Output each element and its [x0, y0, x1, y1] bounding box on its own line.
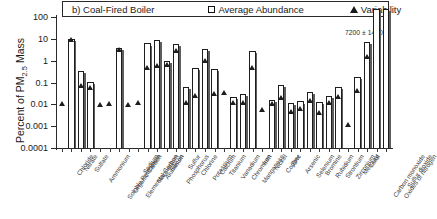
variability-marker	[345, 122, 351, 127]
variability-marker	[364, 54, 370, 59]
variability-marker	[135, 100, 141, 105]
variability-marker	[125, 102, 131, 107]
bar	[183, 87, 189, 148]
variability-marker	[78, 83, 84, 88]
variability-marker	[221, 90, 227, 95]
variability-marker	[144, 65, 150, 70]
variability-marker	[183, 100, 189, 105]
variability-marker	[240, 100, 246, 105]
x-tick	[339, 148, 340, 152]
x-tick	[319, 148, 320, 152]
bar	[144, 43, 150, 148]
x-tick	[291, 148, 292, 152]
bar	[87, 82, 93, 148]
x-tick	[167, 148, 168, 152]
x-tick	[62, 148, 63, 152]
x-tick	[262, 148, 263, 152]
x-tick-label: Zinc	[289, 153, 302, 167]
bar	[373, 9, 379, 148]
y-tick-label: 10	[38, 34, 48, 44]
bar	[154, 40, 160, 148]
variability-marker	[259, 107, 265, 112]
variability-marker	[106, 101, 112, 106]
filled-triangle-icon	[350, 6, 358, 13]
x-tick	[110, 148, 111, 152]
y-tick	[51, 148, 57, 149]
x-tick	[205, 148, 206, 152]
variability-marker	[335, 94, 341, 99]
bar	[173, 44, 179, 148]
bar	[192, 68, 198, 148]
variability-marker	[68, 37, 74, 42]
variability-marker	[297, 106, 303, 111]
variability-marker	[316, 110, 322, 115]
variability-marker	[116, 47, 122, 52]
x-tick	[348, 148, 349, 152]
x-tick	[367, 148, 368, 152]
variability-marker	[269, 101, 275, 106]
variability-marker	[354, 88, 360, 93]
variability-marker	[249, 65, 255, 70]
y-tick-label: 0.1	[35, 78, 48, 88]
x-tick	[129, 148, 130, 152]
y-tick-label: 0.001	[25, 121, 48, 131]
x-tick	[138, 148, 139, 152]
x-tick	[377, 148, 378, 152]
bar	[269, 100, 275, 148]
x-tick	[272, 148, 273, 152]
chart-legend: b) Coal-Fired Boiler Average Abundance V…	[62, 1, 389, 17]
variability-marker	[154, 63, 160, 68]
x-tick	[148, 148, 149, 152]
variability-marker	[288, 109, 294, 114]
variability-marker	[164, 62, 170, 67]
x-tick	[281, 148, 282, 152]
variability-marker	[192, 93, 198, 98]
x-tick	[186, 148, 187, 152]
x-tick-label: Ammonium	[107, 153, 131, 183]
x-tick	[100, 148, 101, 152]
variability-marker	[97, 102, 103, 107]
variability-marker	[173, 48, 179, 53]
variability-marker	[326, 100, 332, 105]
bar	[383, 9, 389, 148]
y-tick-label: 0.0001	[20, 143, 48, 153]
variability-marker	[87, 85, 93, 90]
variability-marker	[202, 58, 208, 63]
panel-label: b) Coal-Fired Boiler	[72, 4, 154, 15]
variability-marker	[59, 101, 65, 106]
x-tick	[300, 148, 301, 152]
x-tick	[234, 148, 235, 152]
legend-label-average-abundance: Average Abundance	[218, 4, 303, 15]
y-tick-label: 0.01	[30, 99, 48, 109]
x-tick	[81, 148, 82, 152]
variability-marker	[307, 98, 313, 103]
x-tick	[224, 148, 225, 152]
x-tick	[195, 148, 196, 152]
x-tick	[90, 148, 91, 152]
open-square-icon	[208, 6, 215, 13]
legend-item-average-abundance: Average Abundance	[208, 4, 303, 15]
y-tick-label: 1	[43, 56, 48, 66]
x-tick	[358, 148, 359, 152]
bar	[116, 48, 122, 148]
x-tick	[119, 148, 120, 152]
x-tick	[329, 148, 330, 152]
variability-marker	[230, 100, 236, 105]
bar	[211, 69, 217, 148]
variability-marker	[278, 95, 284, 100]
bar	[164, 61, 170, 148]
x-tick	[215, 148, 216, 152]
y-tick-label: 100	[33, 12, 48, 22]
bar	[202, 49, 208, 148]
x-tick	[71, 148, 72, 152]
x-tick	[243, 148, 244, 152]
x-tick	[157, 148, 158, 152]
x-tick	[176, 148, 177, 152]
variability-marker	[211, 91, 217, 96]
x-tick	[386, 148, 387, 152]
bar	[68, 39, 74, 148]
x-tick	[253, 148, 254, 152]
x-tick	[310, 148, 311, 152]
